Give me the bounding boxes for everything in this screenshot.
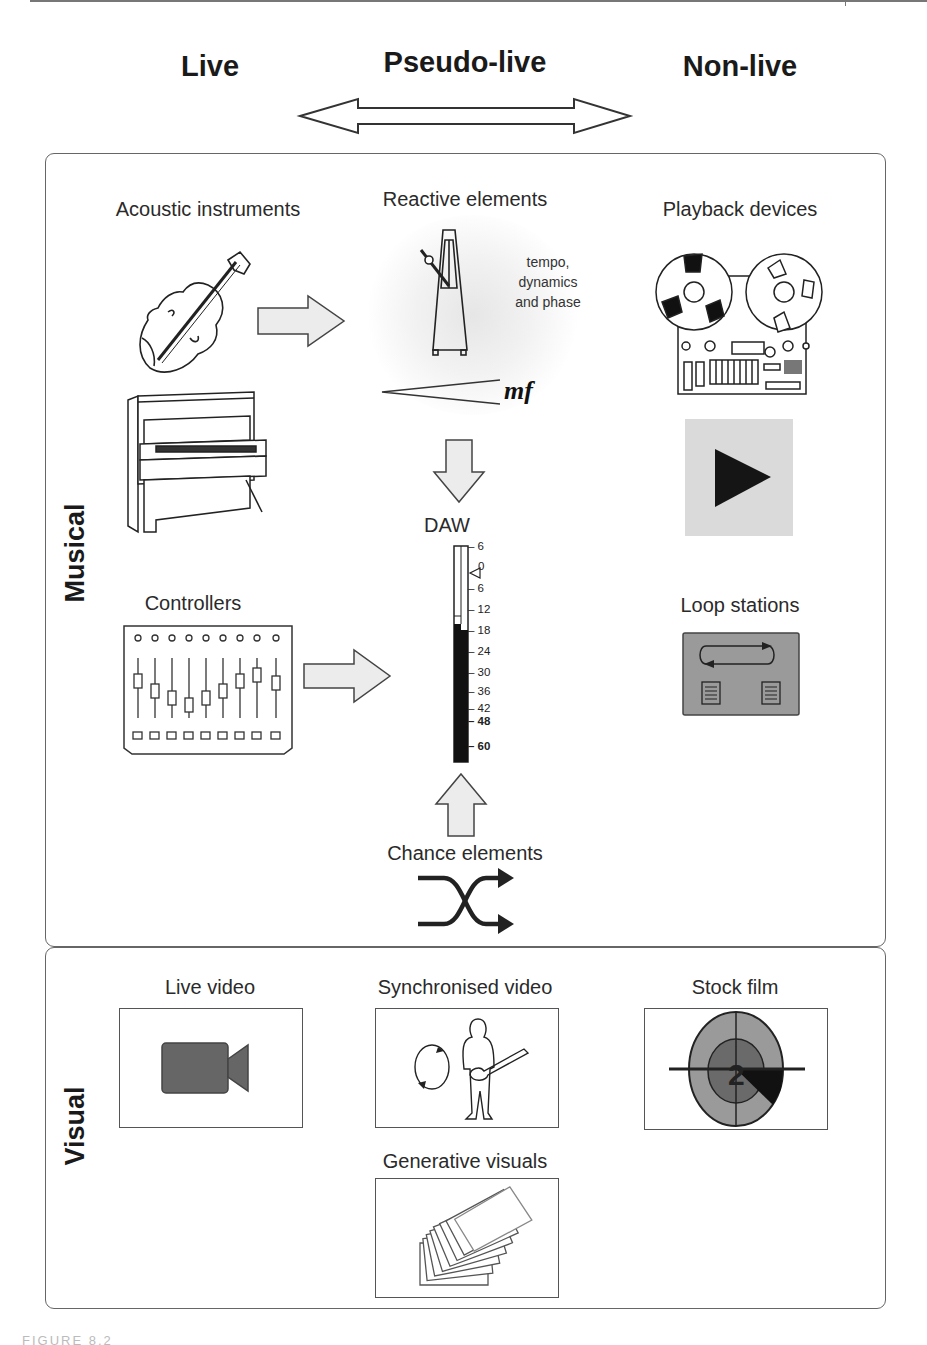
reactive-note: tempo, dynamics and phase: [500, 252, 596, 312]
crescendo-hairpin-icon: [380, 378, 502, 406]
play-button-icon: [685, 419, 793, 536]
video-camera-icon: [120, 1009, 302, 1127]
fader-controller-icon: [122, 624, 294, 756]
stacked-frames-icon: [376, 1179, 558, 1297]
meter-tick: – 6: [468, 540, 484, 552]
stock-film-caption: Stock film: [630, 976, 840, 999]
arrow-right-icon: [256, 294, 348, 348]
musical-side-label: Musical: [55, 468, 95, 638]
meter-tick: – 42: [468, 702, 490, 714]
visual-side-label: Visual: [55, 1041, 95, 1211]
figure-caption: FIGURE 8.2: [22, 1333, 113, 1345]
upright-piano-icon: [126, 388, 272, 536]
violin-icon: [128, 250, 258, 378]
arrow-down-icon: [432, 438, 486, 504]
chance-elements-caption: Chance elements: [350, 842, 580, 865]
loop-stations-caption: Loop stations: [640, 594, 840, 617]
meter-tick: – 48: [468, 715, 490, 727]
reactive-note-line-3: and phase: [500, 292, 596, 312]
loop-station-icon: [682, 632, 800, 716]
acoustic-instruments-caption: Acoustic instruments: [88, 198, 328, 221]
stock-film-frame: 2: [644, 1008, 828, 1130]
arrow-right-icon: [302, 648, 394, 704]
label-pseudo-live: Pseudo-live: [340, 46, 590, 79]
generative-visuals-frame: [375, 1178, 559, 1298]
live-video-caption: Live video: [110, 976, 310, 999]
page-top-rule: [30, 0, 927, 2]
shuffle-icon: [416, 866, 516, 938]
guitarist-sync-icon: [376, 1009, 558, 1127]
meter-tick: – 12: [468, 603, 490, 615]
metronome-icon: [415, 228, 485, 360]
label-non-live: Non-live: [640, 50, 840, 83]
meter-tick: – 36: [468, 685, 490, 697]
reactive-note-line-1: tempo,: [500, 252, 596, 272]
label-live: Live: [140, 50, 280, 83]
live-video-frame: [119, 1008, 303, 1128]
playback-devices-caption: Playback devices: [630, 198, 850, 221]
dynamic-mark-mf: mf: [504, 376, 533, 406]
controllers-caption: Controllers: [118, 592, 268, 615]
page-top-rule-tick: [845, 0, 846, 6]
reactive-note-line-2: dynamics: [500, 272, 596, 292]
reel-to-reel-tape-icon: [654, 246, 826, 402]
reactive-elements-caption: Reactive elements: [350, 188, 580, 211]
meter-tick: 0: [478, 560, 484, 572]
generative-visuals-caption: Generative visuals: [340, 1150, 590, 1173]
meter-tick: – 6: [468, 582, 484, 594]
meter-tick: – 24: [468, 645, 490, 657]
meter-tick: – 18: [468, 624, 490, 636]
meter-tick: – 30: [468, 666, 490, 678]
double-headed-arrow-icon: [296, 96, 636, 136]
daw-caption: DAW: [412, 514, 482, 537]
countdown-number: 2: [728, 1058, 745, 1091]
synchronised-video-frame: [375, 1008, 559, 1128]
meter-tick: – 60: [468, 740, 490, 752]
film-countdown-leader-icon: 2: [645, 1009, 827, 1129]
arrow-up-icon: [434, 772, 488, 838]
synchronised-video-caption: Synchronised video: [340, 976, 590, 999]
